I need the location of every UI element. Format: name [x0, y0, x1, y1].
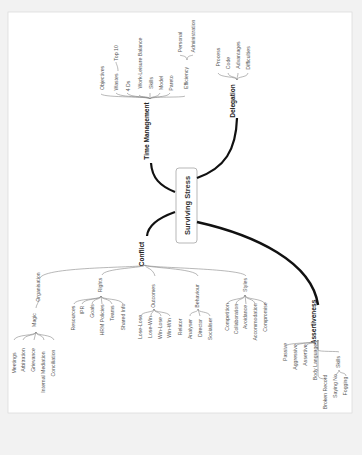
node-arbitration[interactable]: Arbitration: [20, 348, 26, 372]
branch-time-management[interactable]: Time Management: [143, 101, 151, 159]
node-grievance[interactable]: Grievance: [30, 348, 36, 372]
node-code[interactable]: Code: [225, 57, 231, 70]
node-relator[interactable]: Relator: [177, 318, 183, 335]
node-win-win[interactable]: Win-Win: [166, 318, 172, 338]
node-aggressive[interactable]: Aggressive: [292, 344, 298, 370]
node-magic[interactable]: Magic: [31, 313, 37, 327]
node-analyser[interactable]: Analyser: [187, 319, 193, 339]
node-teams[interactable]: Teams: [109, 305, 115, 321]
node-top-10[interactable]: Top 10: [113, 45, 119, 61]
node-advantages[interactable]: Advantages: [235, 41, 241, 69]
node-broken-record[interactable]: Broken Record: [322, 375, 328, 410]
node-director[interactable]: Director: [197, 319, 203, 337]
node-accommodation[interactable]: Accommodation: [252, 303, 258, 340]
central-node-label: Surviving Stress: [183, 176, 192, 235]
node-skills[interactable]: Skills: [148, 77, 154, 90]
node-assertive[interactable]: Assertive: [302, 344, 308, 365]
node-administration[interactable]: Administration: [190, 19, 196, 52]
branch-delegation[interactable]: Delegation: [229, 84, 237, 118]
node-conciliation[interactable]: Conciliation: [50, 349, 56, 376]
node-shared-info[interactable]: Shared Info: [120, 303, 126, 330]
node-pareto[interactable]: Pareto: [168, 75, 174, 90]
mind-map: Surviving Stress Time Management Delegat…: [0, 0, 362, 455]
node-fogging[interactable]: Fogging: [342, 377, 348, 396]
node-resources[interactable]: Resources: [70, 305, 76, 330]
node-styles[interactable]: Styles: [242, 278, 248, 293]
node-win-lose[interactable]: Win-Lose: [157, 317, 163, 339]
node-competition[interactable]: Competition: [224, 303, 230, 331]
node-outcomes[interactable]: Outcomes: [150, 284, 156, 308]
node-4-ds[interactable]: 4 Ds: [125, 80, 131, 91]
node-efficiency[interactable]: Efficiency: [183, 67, 189, 90]
node-behaviour[interactable]: Behaviour: [194, 284, 200, 308]
node-goals[interactable]: Goals: [89, 304, 95, 318]
node-ipr[interactable]: IPR: [79, 305, 85, 314]
node-body-language[interactable]: Body Language: [312, 344, 318, 380]
node-passive[interactable]: Passive: [282, 343, 288, 361]
node-internal-mediation[interactable]: Internal Mediation: [40, 351, 46, 392]
node-rights[interactable]: Rights: [97, 277, 103, 292]
node-process[interactable]: Process: [215, 47, 221, 66]
node-collaboration[interactable]: Collaboration: [233, 304, 239, 335]
node-skills-assertiveness[interactable]: Skills: [335, 356, 341, 369]
node-objectives[interactable]: Objectives: [99, 65, 105, 90]
branch-conflict[interactable]: Conflict: [138, 241, 145, 266]
node-socialiser[interactable]: Socialiser: [207, 317, 213, 340]
node-organisation[interactable]: Organisation: [35, 272, 41, 302]
node-saying-no[interactable]: Saying No: [332, 374, 338, 398]
node-difficulties[interactable]: Difficulties: [245, 46, 251, 70]
node-lose-lose[interactable]: Lose-Lose: [137, 315, 143, 339]
branch-assertiveness[interactable]: Assertiveness: [310, 299, 317, 344]
node-wastes[interactable]: Wastes: [113, 73, 119, 91]
node-work-leisure-balance[interactable]: Work-Leisure Balance: [137, 37, 143, 88]
node-hrm-policies[interactable]: HRM Policies: [99, 304, 105, 336]
node-personal[interactable]: Personal: [177, 32, 183, 52]
node-model[interactable]: Model: [158, 76, 164, 90]
node-avoidance[interactable]: Avoidance: [242, 305, 248, 329]
node-meetings[interactable]: Meetings: [11, 352, 17, 373]
node-lose-win[interactable]: Lose-Win: [147, 316, 153, 338]
node-compromise[interactable]: Compromise: [262, 302, 268, 332]
